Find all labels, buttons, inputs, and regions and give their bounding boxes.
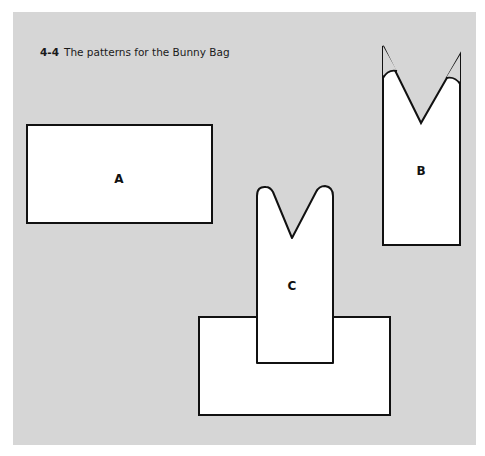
- piece-a-label: A: [114, 172, 124, 186]
- piece-b-label: B: [416, 164, 425, 178]
- pattern-piece-c: C: [199, 186, 390, 415]
- pattern-piece-b: B: [383, 46, 460, 245]
- pattern-piece-a: A: [27, 125, 212, 223]
- pattern-diagram: A B C: [0, 0, 485, 456]
- piece-c-label: C: [288, 279, 297, 293]
